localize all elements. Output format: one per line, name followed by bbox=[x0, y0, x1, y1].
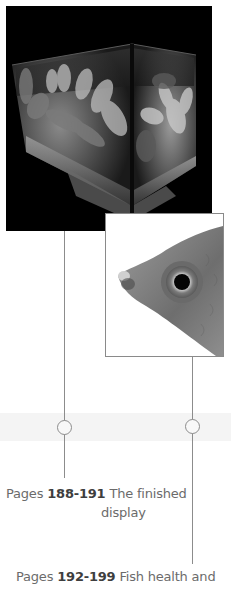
caption-pages-label: Pages bbox=[16, 569, 53, 584]
caption-title-line1: Fish health and bbox=[119, 569, 215, 584]
leader-node-2 bbox=[185, 419, 200, 434]
fish-photo bbox=[105, 213, 224, 357]
fish-head-image bbox=[106, 214, 223, 356]
leader-node-1 bbox=[57, 420, 72, 435]
leader-line-2 bbox=[192, 357, 193, 564]
caption-finished-display: Pages 188-191 The finished bbox=[6, 485, 187, 503]
caption-title-line2: display bbox=[101, 505, 146, 520]
caption-pages-label: Pages bbox=[6, 486, 43, 501]
caption-page-range: 188-191 bbox=[47, 486, 105, 501]
aquarium-image bbox=[6, 6, 212, 231]
caption-finished-display-cont: display bbox=[101, 504, 146, 522]
caption-page-range: 192-199 bbox=[57, 569, 115, 584]
caption-fish-health: Pages 192-199 Fish health and bbox=[16, 568, 215, 586]
aquarium-photo bbox=[6, 6, 212, 231]
caption-title-line1: The finished bbox=[109, 486, 186, 501]
leader-line-1 bbox=[64, 231, 65, 478]
